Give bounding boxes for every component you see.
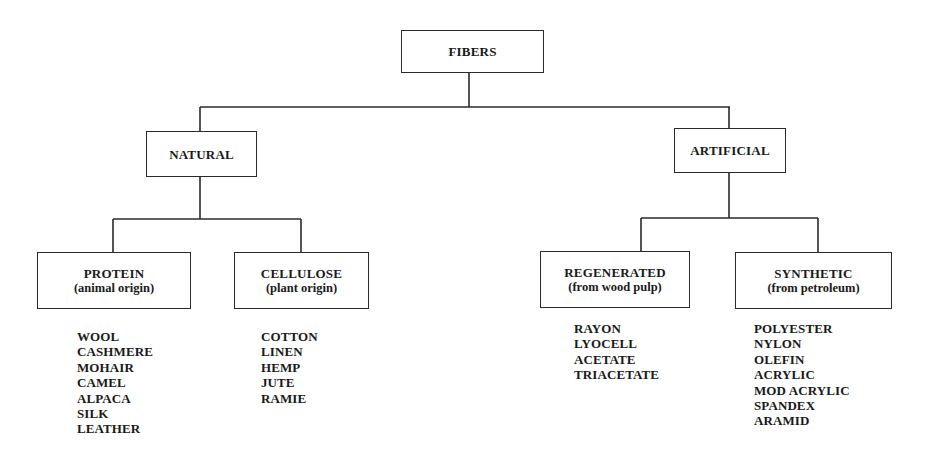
- node-cellulose-label: CELLULOSE: [261, 266, 342, 281]
- node-synthetic: SYNTHETIC (from petroleum): [735, 252, 892, 309]
- list-item: TRIACETATE: [574, 367, 659, 382]
- node-regenerated-label: REGENERATED: [564, 265, 666, 280]
- list-item: WOOL: [77, 329, 153, 344]
- list-item: POLYESTER: [754, 321, 850, 336]
- list-item: RAYON: [574, 321, 659, 336]
- list-item: RAMIE: [261, 391, 318, 406]
- node-protein-label: PROTEIN: [84, 266, 145, 281]
- node-natural: NATURAL: [146, 131, 257, 177]
- list-item: OLEFIN: [754, 352, 850, 367]
- list-item: MOD ACRYLIC: [754, 383, 850, 398]
- list-item: ACRYLIC: [754, 367, 850, 382]
- list-item: HEMP: [261, 360, 318, 375]
- list-item: SPANDEX: [754, 398, 850, 413]
- list-item: NYLON: [754, 336, 850, 351]
- list-item: ACETATE: [574, 352, 659, 367]
- cellulose-fiber-list: COTTON LINEN HEMP JUTE RAMIE: [261, 329, 318, 406]
- protein-fiber-list: WOOL CASHMERE MOHAIR CAMEL ALPACA SILK L…: [77, 329, 153, 437]
- node-protein-sublabel: (animal origin): [74, 281, 154, 295]
- list-item: LYOCELL: [574, 336, 659, 351]
- node-fibers-label: FIBERS: [448, 44, 496, 59]
- list-item: CASHMERE: [77, 344, 153, 359]
- node-cellulose-sublabel: (plant origin): [266, 281, 337, 295]
- node-regenerated: REGENERATED (from wood pulp): [540, 251, 690, 308]
- node-cellulose: CELLULOSE (plant origin): [234, 252, 369, 309]
- node-regenerated-sublabel: (from wood pulp): [568, 280, 662, 294]
- list-item: LEATHER: [77, 421, 153, 436]
- node-fibers: FIBERS: [401, 30, 544, 73]
- list-item: ALPACA: [77, 391, 153, 406]
- list-item: ARAMID: [754, 413, 850, 428]
- list-item: JUTE: [261, 375, 318, 390]
- node-artificial: ARTIFICIAL: [674, 128, 786, 173]
- node-protein: PROTEIN (animal origin): [37, 252, 191, 309]
- list-item: SILK: [77, 406, 153, 421]
- list-item: MOHAIR: [77, 360, 153, 375]
- list-item: CAMEL: [77, 375, 153, 390]
- list-item: LINEN: [261, 344, 318, 359]
- node-artificial-label: ARTIFICIAL: [690, 143, 770, 158]
- node-natural-label: NATURAL: [169, 147, 234, 162]
- regenerated-fiber-list: RAYON LYOCELL ACETATE TRIACETATE: [574, 321, 659, 383]
- synthetic-fiber-list: POLYESTER NYLON OLEFIN ACRYLIC MOD ACRYL…: [754, 321, 850, 429]
- list-item: COTTON: [261, 329, 318, 344]
- node-synthetic-label: SYNTHETIC: [774, 266, 852, 281]
- node-synthetic-sublabel: (from petroleum): [767, 281, 859, 295]
